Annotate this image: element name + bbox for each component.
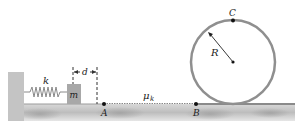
physics-diagram: k m d μ k A B C R: [0, 0, 308, 125]
radius-label: R: [210, 47, 219, 58]
friction-subscript: k: [150, 95, 154, 103]
distance-label: d: [82, 67, 88, 77]
point-c: [231, 19, 235, 23]
spring-constant-label: k: [43, 75, 49, 86]
point-b: [194, 102, 198, 106]
point-a-label: A: [100, 108, 108, 118]
spring: [24, 87, 67, 97]
floor: [8, 104, 295, 121]
point-c-label: C: [229, 8, 236, 18]
mass-label: m: [70, 90, 79, 100]
point-a: [102, 102, 106, 106]
point-b-label: B: [192, 108, 200, 118]
wall: [8, 72, 24, 121]
friction-label: μ: [143, 90, 150, 101]
